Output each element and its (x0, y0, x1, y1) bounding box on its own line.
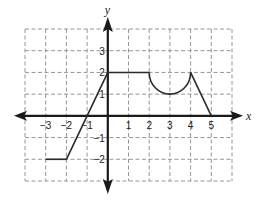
x-tick-label: −2 (61, 120, 73, 131)
x-axis-label: x (245, 109, 252, 123)
x-tick-label: 3 (167, 120, 173, 131)
x-tick-label: 5 (209, 120, 215, 131)
axes: x y (14, 3, 252, 194)
x-tick-label: 2 (146, 120, 152, 131)
x-tick-label: 4 (188, 120, 194, 131)
y-tick-label: 1 (99, 89, 105, 100)
y-tick-label: −1 (93, 133, 105, 144)
y-tick-label: −2 (93, 154, 105, 165)
x-tick-label: −3 (40, 120, 52, 131)
x-tick-label: 1 (126, 120, 132, 131)
y-tick-label: 2 (99, 67, 105, 78)
y-axis-label: y (104, 3, 111, 17)
chart: x y −3−2−112345−2−1123 (0, 0, 265, 206)
y-tick-label: 3 (99, 46, 105, 57)
grid (25, 29, 232, 181)
